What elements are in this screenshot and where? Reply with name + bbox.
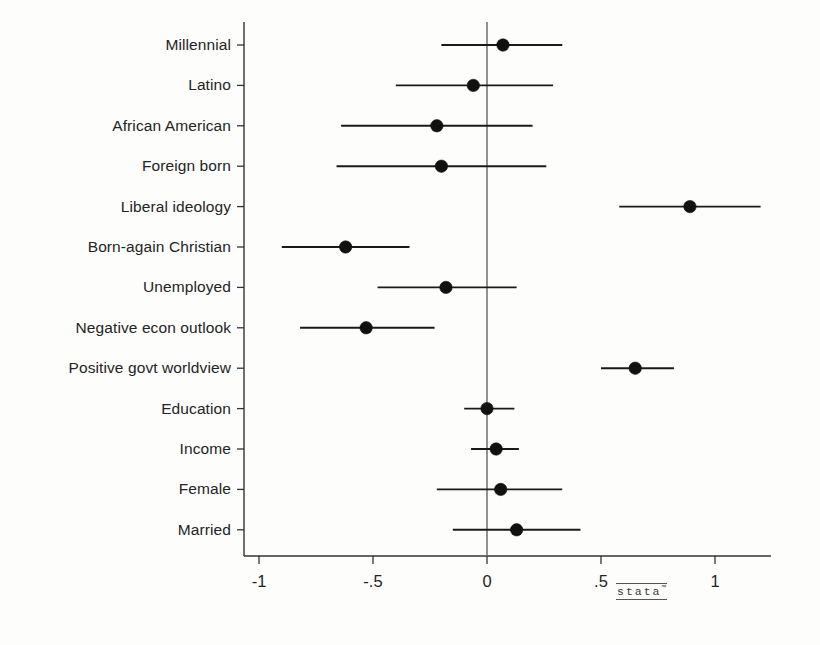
coefficient-row <box>437 483 562 495</box>
stata-logo: stata™ <box>616 583 667 600</box>
estimate-marker <box>510 524 522 536</box>
coefficient-row <box>378 281 517 293</box>
coefficient-row <box>282 241 410 253</box>
estimate-marker <box>490 443 502 455</box>
x-tick-label-0: -1 <box>252 573 267 590</box>
coefficient-row <box>619 200 760 212</box>
estimate-marker <box>481 402 493 414</box>
estimate-marker <box>467 79 479 91</box>
category-label-female: Female <box>179 482 231 498</box>
axes-group <box>237 22 771 564</box>
estimate-marker <box>339 241 351 253</box>
category-label-liberal-ideology: Liberal ideology <box>121 199 231 215</box>
category-label-education: Education <box>161 401 231 417</box>
estimate-marker <box>629 362 641 374</box>
trademark-symbol: ™ <box>662 584 666 592</box>
ci-series-group <box>282 39 761 536</box>
coefficient-row <box>471 443 519 455</box>
coefficient-row <box>396 79 553 91</box>
category-label-latino: Latino <box>188 78 231 94</box>
category-label-negative-econ-outlook: Negative econ outlook <box>76 320 231 336</box>
coefficient-row <box>464 402 514 414</box>
stata-logo-text: stata <box>617 585 662 598</box>
x-tick-label-3: .5 <box>594 573 608 590</box>
category-label-foreign-born: Foreign born <box>142 158 231 174</box>
x-tick-label-1: -.5 <box>363 573 382 590</box>
category-label-african-american: African American <box>112 118 231 134</box>
category-label-income: Income <box>180 441 231 457</box>
coefficient-row <box>341 120 533 132</box>
x-tick-label-2: 0 <box>482 573 491 590</box>
estimate-marker <box>431 120 443 132</box>
category-label-positive-govt-worldview: Positive govt worldview <box>68 360 231 376</box>
coefficient-plot-figure: MillennialLatinoAfrican AmericanForeign … <box>0 0 820 645</box>
coefficient-row <box>300 322 435 334</box>
category-label-millennial: Millennial <box>165 37 231 53</box>
coefficient-row <box>337 160 547 172</box>
category-label-married: Married <box>178 522 231 538</box>
estimate-marker <box>360 322 372 334</box>
estimate-marker <box>435 160 447 172</box>
estimate-marker <box>684 200 696 212</box>
coefficient-row <box>441 39 562 51</box>
category-label-born-again-christian: Born-again Christian <box>88 239 231 255</box>
estimate-marker <box>494 483 506 495</box>
estimate-marker <box>440 281 452 293</box>
estimate-marker <box>497 39 509 51</box>
category-label-unemployed: Unemployed <box>143 280 231 296</box>
x-tick-label-4: 1 <box>710 573 719 590</box>
coefficient-row <box>453 524 581 536</box>
coefficient-row <box>601 362 674 374</box>
